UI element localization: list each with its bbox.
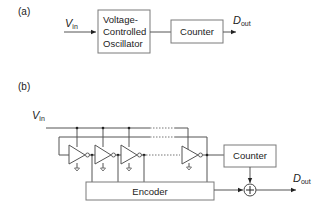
part-a-label: (a) — [18, 6, 30, 17]
vco-line-3: Oscillator — [103, 38, 143, 49]
inverter-1 — [69, 127, 90, 171]
inverter-3 — [121, 127, 142, 171]
vco-line-1: Voltage- — [103, 14, 138, 25]
part-b-vin-label: Vin — [32, 109, 45, 122]
inverter-n — [182, 146, 203, 170]
part-b: (b) Vin — [18, 81, 311, 200]
part-a-counter-label: Counter — [180, 26, 214, 37]
part-b-counter-label: Counter — [233, 150, 267, 161]
vco-line-2: Controlled — [103, 26, 146, 37]
diagram-canvas: (a) Vin Voltage- Controlled Oscillator C… — [0, 0, 334, 202]
adder — [244, 184, 256, 196]
part-b-dout-label: Dout — [293, 172, 311, 185]
encoder-label: Encoder — [132, 186, 167, 197]
part-a-vin-label: Vin — [65, 17, 78, 30]
part-b-label: (b) — [18, 81, 30, 92]
part-a-dout-label: Dout — [233, 14, 251, 27]
inverter-2 — [95, 127, 116, 171]
part-a: (a) Vin Voltage- Controlled Oscillator C… — [18, 6, 251, 53]
